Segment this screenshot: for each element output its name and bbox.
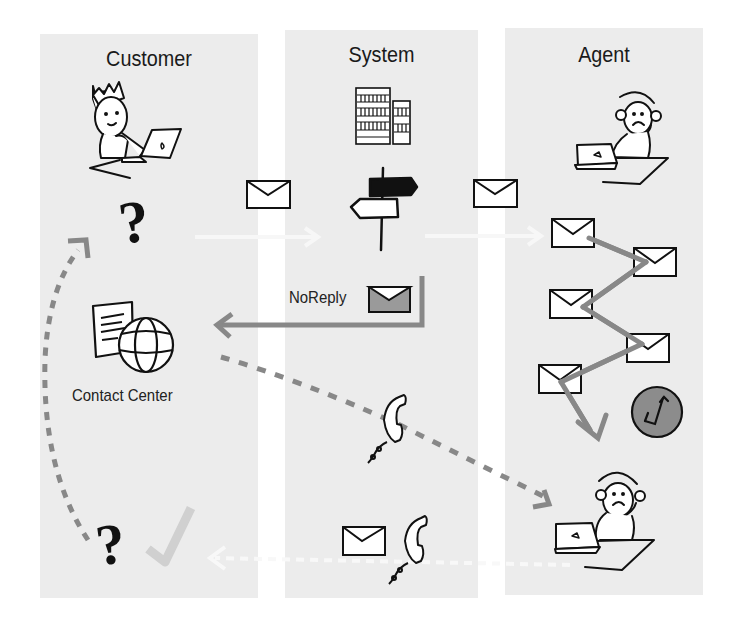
signpost-icon bbox=[351, 168, 417, 250]
faint-return-arrow bbox=[210, 547, 570, 569]
noreply-envelope-icon bbox=[369, 287, 410, 312]
contact-center-document-globe-icon bbox=[93, 302, 173, 372]
checkmark-icon bbox=[148, 508, 191, 562]
question-mark-icon: ? bbox=[92, 510, 130, 578]
dashed-retry-arrowhead bbox=[68, 240, 88, 258]
envelope-icon bbox=[247, 181, 290, 208]
question-mark-icon: ? bbox=[115, 187, 154, 257]
diagram-drawing: ? bbox=[0, 0, 745, 628]
agent-headset-laptop-icon bbox=[575, 92, 668, 184]
envelope-icon bbox=[539, 365, 581, 393]
server-buildings-icon bbox=[356, 88, 410, 144]
agent-headset-laptop-icon bbox=[555, 473, 654, 570]
faint-flow-arrow-customer-to-system bbox=[195, 228, 318, 246]
telephone-handset-icon bbox=[368, 395, 406, 463]
telephone-handset-icon bbox=[389, 516, 427, 584]
dashed-retry-arrow bbox=[45, 250, 88, 540]
envelope-icon bbox=[552, 219, 594, 247]
envelope-icon bbox=[343, 527, 385, 555]
clock-icon bbox=[632, 387, 682, 437]
envelope-icon bbox=[474, 180, 517, 207]
faint-flow-arrow-system-to-agent bbox=[425, 227, 541, 245]
dashed-call-arrow bbox=[221, 357, 545, 497]
customer-king-laptop-icon bbox=[90, 82, 181, 178]
